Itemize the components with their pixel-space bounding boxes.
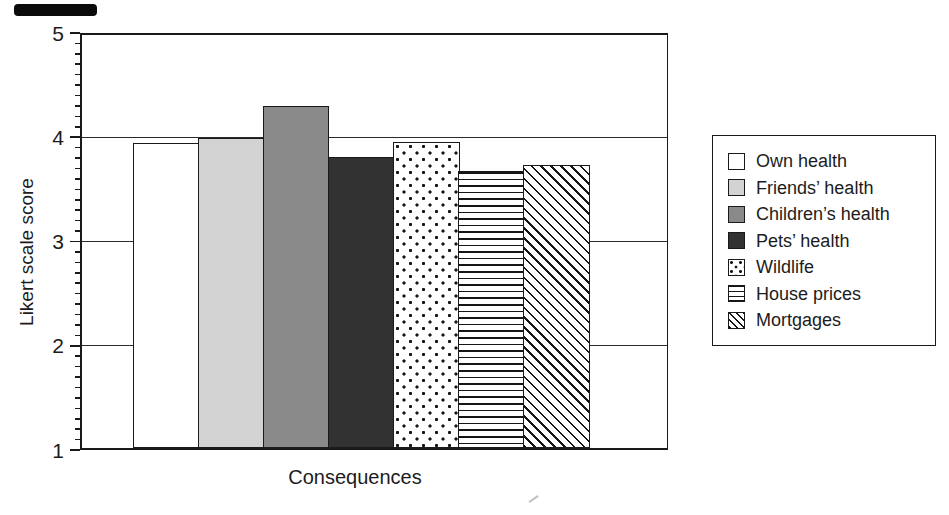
- legend-label-mortgages: Mortgages: [756, 311, 841, 329]
- legend-label-house-prices: House prices: [756, 285, 861, 303]
- minor-tick-y-3.9: [75, 147, 81, 149]
- legend-swatch-light-gray-icon: [728, 179, 745, 196]
- minor-tick-y-2.5: [75, 293, 81, 295]
- minor-tick-y-4.9: [75, 43, 81, 45]
- y-tick-label-5: 5: [30, 23, 64, 44]
- minor-tick-y-2.8: [75, 262, 81, 264]
- legend-label-own-health: Own health: [756, 152, 847, 170]
- x-axis-title: Consequences: [50, 466, 660, 489]
- major-tick-y-1.0: [70, 449, 80, 451]
- major-tick-y-5.0: [70, 32, 80, 34]
- legend-item-wildlife: Wildlife: [728, 254, 935, 281]
- scan-artifact-black-bar: [14, 4, 97, 16]
- legend-label-pets-health: Pets’ health: [756, 232, 849, 250]
- bar-house-prices: [458, 171, 525, 448]
- legend-swatch-h-lines-icon: [728, 285, 745, 302]
- bar-pets-health: [328, 157, 395, 448]
- minor-tick-y-4.8: [75, 53, 81, 55]
- minor-tick-y-2.4: [75, 303, 81, 305]
- minor-tick-y-3.2: [75, 220, 81, 222]
- y-tick-label-2: 2: [30, 335, 64, 356]
- minor-tick-y-1.1: [75, 439, 81, 441]
- minor-tick-y-4.5: [75, 84, 81, 86]
- bar-mortgages: [523, 165, 590, 448]
- major-tick-y-4.0: [70, 136, 80, 138]
- legend-item-friends-health: Friends’ health: [728, 175, 935, 202]
- legend-item-children-s-health: Children’s health: [728, 201, 935, 228]
- minor-tick-y-3.8: [75, 157, 81, 159]
- minor-tick-y-2.2: [75, 324, 81, 326]
- minor-tick-y-4.4: [75, 95, 81, 97]
- legend-label-children-s-health: Children’s health: [756, 205, 890, 223]
- minor-tick-y-3.1: [75, 230, 81, 232]
- y-tick-label-4: 4: [30, 127, 64, 148]
- minor-tick-y-1.3: [75, 418, 81, 420]
- minor-tick-y-1.6: [75, 387, 81, 389]
- minor-tick-y-4.2: [75, 116, 81, 118]
- gridline-y-4: [82, 137, 667, 138]
- minor-tick-y-1.9: [75, 355, 81, 357]
- minor-tick-y-3.3: [75, 209, 81, 211]
- legend-item-pets-health: Pets’ health: [728, 228, 935, 255]
- minor-tick-y-3.6: [75, 178, 81, 180]
- y-axis-title: Likert scale score: [16, 152, 40, 352]
- minor-tick-y-3.5: [75, 189, 81, 191]
- minor-tick-y-2.3: [75, 314, 81, 316]
- legend-swatch-dots-icon: [728, 259, 745, 276]
- legend-label-friends-health: Friends’ health: [756, 179, 873, 197]
- minor-tick-y-1.4: [75, 408, 81, 410]
- minor-tick-y-4.7: [75, 63, 81, 65]
- legend-label-wildlife: Wildlife: [756, 258, 814, 276]
- minor-tick-y-3.4: [75, 199, 81, 201]
- y-tick-label-3: 3: [30, 231, 64, 252]
- legend-swatch-mid-gray-icon: [728, 206, 745, 223]
- minor-tick-y-3.7: [75, 168, 81, 170]
- major-tick-y-2.0: [70, 345, 80, 347]
- legend-item-own-health: Own health: [728, 148, 935, 175]
- legend-box: Own healthFriends’ healthChildren’s heal…: [712, 135, 936, 346]
- legend-item-mortgages: Mortgages: [728, 307, 935, 334]
- figure-canvas: Likert scale score Consequences Own heal…: [0, 0, 949, 515]
- y-tick-label-1: 1: [30, 440, 64, 461]
- bar-friends-health: [198, 138, 265, 448]
- minor-tick-y-2.9: [75, 251, 81, 253]
- bar-own-health: [133, 143, 200, 448]
- legend-swatch-diag-lines-icon: [728, 312, 745, 329]
- minor-tick-y-2.1: [75, 335, 81, 337]
- scan-speck: [529, 495, 539, 503]
- legend-swatch-white-icon: [728, 153, 745, 170]
- legend-swatch-dark-gray-icon: [728, 232, 745, 249]
- minor-tick-y-4.6: [75, 74, 81, 76]
- minor-tick-y-1.2: [75, 428, 81, 430]
- minor-tick-y-1.8: [75, 366, 81, 368]
- bar-children-s-health: [263, 106, 330, 448]
- minor-tick-y-2.7: [75, 272, 81, 274]
- minor-tick-y-4.3: [75, 105, 81, 107]
- plot-area: [80, 33, 668, 450]
- minor-tick-y-4.1: [75, 126, 81, 128]
- bar-wildlife: [393, 142, 460, 448]
- major-tick-y-3.0: [70, 241, 80, 243]
- minor-tick-y-1.5: [75, 397, 81, 399]
- minor-tick-y-1.7: [75, 376, 81, 378]
- legend-item-house-prices: House prices: [728, 281, 935, 308]
- minor-tick-y-2.6: [75, 282, 81, 284]
